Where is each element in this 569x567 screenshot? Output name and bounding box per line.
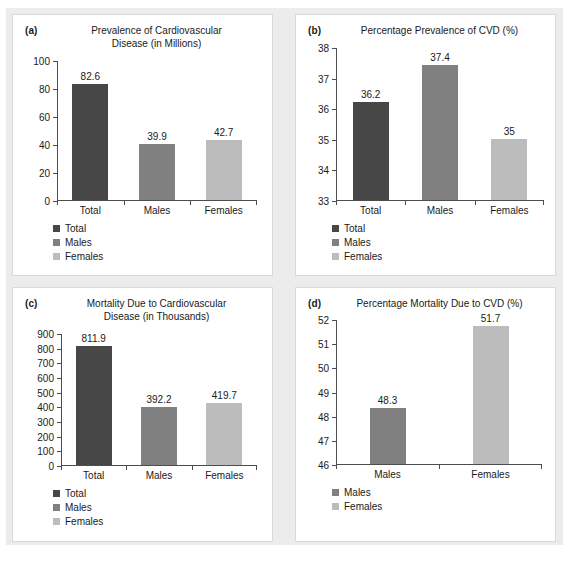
- y-tick-label-c-7: 700: [37, 358, 54, 369]
- y-tick-label-a-4: 80: [39, 84, 50, 95]
- bar-a-females: 42.7: [206, 140, 242, 200]
- x-tick-c-2: [192, 466, 193, 470]
- panel-c-title-line1: Mortality Due to Cardiovascular: [47, 297, 266, 310]
- x-tick-b-2: [475, 201, 476, 205]
- y-tick-b-5: [332, 48, 336, 49]
- x-tick-b-1: [405, 201, 406, 205]
- bar-value-a-females: 42.7: [214, 127, 233, 138]
- y-tick-label-c-8: 800: [37, 343, 54, 354]
- legend-row-c-females: Females: [53, 514, 103, 528]
- y-tick-label-a-3: 60: [39, 112, 50, 123]
- x-tick-b-0: [336, 201, 337, 205]
- y-tick-label-c-1: 100: [37, 446, 54, 457]
- bar-value-a-total: 82.6: [81, 71, 100, 82]
- panel-a-title-line2: Disease (in Millions): [47, 37, 266, 50]
- y-tick-c-4: [57, 407, 61, 408]
- legend-row-a-males: Males: [53, 235, 103, 249]
- panel-c-title-line2: Disease (in Thousands): [47, 310, 266, 323]
- y-tick-label-b-2: 35: [318, 134, 329, 145]
- x-category-label-d-females: Females: [471, 469, 509, 480]
- y-tick-a-1: [53, 173, 57, 174]
- legend-label-c-males: Males: [65, 502, 92, 513]
- bar-value-c-total: 811.9: [82, 333, 106, 344]
- y-tick-c-9: [57, 334, 61, 335]
- x-tick-a-end: [256, 201, 257, 205]
- y-tick-b-1: [332, 170, 336, 171]
- y-tick-a-4: [53, 89, 57, 90]
- y-axis-d: [336, 320, 337, 465]
- x-category-label-c-females: Females: [205, 470, 243, 481]
- y-tick-b-4: [332, 79, 336, 80]
- panel-b: (b) Percentage Prevalence of CVD (%) 333…: [295, 14, 556, 276]
- y-tick-label-b-0: 33: [318, 196, 329, 207]
- legend-swatch-males-icon: [332, 239, 339, 246]
- legend-row-b-females: Females: [332, 249, 382, 263]
- legend-c: TotalMalesFemales: [53, 486, 103, 528]
- legend-swatch-males-icon: [53, 239, 60, 246]
- y-tick-label-c-5: 500: [37, 387, 54, 398]
- y-axis-c: [61, 334, 62, 466]
- bar-d-males: 48.3: [370, 408, 406, 464]
- legend-swatch-females-icon: [53, 518, 60, 525]
- panel-a-title: Prevalence of Cardiovascular Disease (in…: [47, 24, 266, 50]
- legend-swatch-females-icon: [332, 503, 339, 510]
- y-tick-c-5: [57, 393, 61, 394]
- y-tick-label-c-0: 0: [48, 461, 54, 472]
- bar-c-males: 392.2: [141, 407, 177, 465]
- y-tick-label-b-5: 38: [318, 43, 329, 54]
- legend-label-d-females: Females: [344, 501, 382, 512]
- y-tick-a-5: [53, 61, 57, 62]
- y-tick-d-3: [332, 393, 336, 394]
- y-tick-d-4: [332, 368, 336, 369]
- y-tick-label-c-2: 200: [37, 431, 54, 442]
- bar-a-males: 39.9: [139, 144, 175, 200]
- x-tick-a-2: [190, 201, 191, 205]
- panel-a-tag: (a): [25, 25, 38, 36]
- x-tick-b-end: [543, 201, 544, 205]
- y-tick-label-d-5: 51: [318, 339, 329, 350]
- legend-row-b-males: Males: [332, 235, 382, 249]
- panel-a: (a) Prevalence of Cardiovascular Disease…: [12, 14, 273, 276]
- x-category-label-b-males: Males: [427, 205, 454, 216]
- legend-row-c-males: Males: [53, 500, 103, 514]
- x-tick-c-0: [61, 466, 62, 470]
- x-tick-c-end: [256, 466, 257, 470]
- bar-value-b-males: 37.4: [430, 52, 449, 63]
- bar-value-b-females: 35: [504, 126, 515, 137]
- panel-b-title: Percentage Prevalence of CVD (%): [330, 24, 549, 37]
- y-tick-label-c-3: 300: [37, 417, 54, 428]
- panel-a-title-line1: Prevalence of Cardiovascular: [47, 24, 266, 37]
- x-category-label-a-females: Females: [204, 205, 242, 216]
- y-tick-c-1: [57, 451, 61, 452]
- y-axis-b: [336, 48, 337, 201]
- bar-value-c-females: 419.7: [212, 390, 237, 401]
- legend-row-a-females: Females: [53, 249, 103, 263]
- y-axis-a: [57, 61, 58, 201]
- legend-row-d-females: Females: [332, 499, 382, 513]
- plot-area-a: 020406080100Total82.6Males39.9Females42.…: [57, 61, 257, 201]
- bar-d-females: 51.7: [473, 326, 509, 464]
- y-tick-label-c-9: 900: [37, 329, 54, 340]
- x-category-label-b-females: Females: [490, 205, 528, 216]
- bar-c-females: 419.7: [206, 403, 242, 465]
- bar-value-c-males: 392.2: [146, 394, 171, 405]
- panel-d-tag: (d): [308, 298, 321, 309]
- legend-swatch-males-icon: [332, 489, 339, 496]
- legend-label-b-total: Total: [344, 223, 365, 234]
- y-tick-label-a-1: 20: [39, 168, 50, 179]
- y-tick-label-d-3: 49: [318, 387, 329, 398]
- y-tick-label-d-2: 48: [318, 411, 329, 422]
- panel-c-title: Mortality Due to Cardiovascular Disease …: [47, 297, 266, 323]
- y-tick-d-1: [332, 441, 336, 442]
- y-tick-b-3: [332, 109, 336, 110]
- bar-value-a-males: 39.9: [147, 131, 166, 142]
- panel-b-tag: (b): [308, 25, 321, 36]
- x-category-label-c-males: Males: [146, 470, 173, 481]
- legend-swatch-total-icon: [53, 490, 60, 497]
- y-tick-c-3: [57, 422, 61, 423]
- y-tick-label-d-4: 50: [318, 363, 329, 374]
- x-tick-a-0: [57, 201, 58, 205]
- legend-label-b-females: Females: [344, 251, 382, 262]
- plot-area-d: 46474849505152Males48.3Females51.7: [336, 320, 542, 465]
- legend-row-c-total: Total: [53, 486, 103, 500]
